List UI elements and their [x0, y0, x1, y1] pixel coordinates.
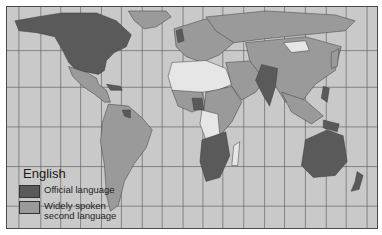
region-nigeria [192, 98, 204, 110]
legend-item-second: Widely spoken second language [19, 201, 139, 221]
swatch-second [19, 201, 40, 214]
region-new-zealand [351, 172, 363, 192]
region-russia [206, 11, 355, 43]
region-madagascar [232, 142, 240, 166]
legend-title: English [23, 167, 139, 181]
region-philippines [321, 86, 329, 102]
region-png [323, 120, 339, 132]
world-map: English Official language Widely spoken … [6, 6, 378, 229]
region-greenland [128, 11, 171, 29]
swatch-official [19, 185, 40, 198]
map-legend: English Official language Widely spoken … [19, 167, 139, 224]
region-north-america [15, 13, 131, 74]
region-caribbean [106, 84, 122, 90]
region-australia [301, 130, 347, 178]
legend-label-official: Official language [44, 185, 115, 195]
legend-label-second: Widely spoken second language [44, 201, 139, 221]
region-southern-africa [200, 132, 230, 182]
legend-item-official: Official language [19, 185, 139, 198]
